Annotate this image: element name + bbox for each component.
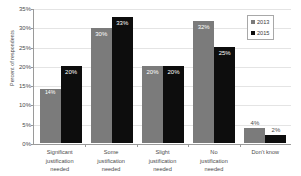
bar-value-label: 2%	[265, 127, 286, 133]
bar-2015-1[interactable]: 33%	[112, 17, 133, 143]
y-tick-label: 0%	[22, 141, 31, 147]
legend-item-2015[interactable]: 2015	[251, 30, 269, 36]
x-axis-label-2: Slightjustificationneeded	[137, 148, 188, 174]
y-tick-label: 10%	[19, 102, 31, 108]
bar-value-label: 14%	[40, 90, 61, 95]
x-axis-label-line: Don't know	[240, 148, 291, 157]
x-axis-label-line: justification	[137, 157, 188, 166]
bar-group: 32%25%	[189, 9, 240, 143]
bar-2013-2[interactable]: 20%	[142, 66, 163, 143]
x-axis-label-line: needed	[188, 165, 239, 174]
x-axis-label-line: needed	[85, 165, 136, 174]
bar-chart: Percent of respondents 0%5%10%15%20%25%3…	[0, 0, 301, 176]
x-axis-label-line: Significant	[34, 148, 85, 157]
bar-2015-4[interactable]: 2%	[265, 135, 286, 143]
y-tick-label: 25%	[19, 45, 31, 51]
bar-2013-0[interactable]: 14%	[40, 89, 61, 143]
bar-value-label: 32%	[193, 24, 214, 30]
legend-swatch-icon-2013	[251, 20, 255, 24]
bar-value-label: 20%	[163, 69, 184, 75]
x-axis-labels: SignificantjustificationneededSomejustif…	[34, 148, 291, 174]
x-axis-label-line: justification	[85, 157, 136, 166]
y-tick-mark	[31, 48, 34, 49]
y-tick-mark	[31, 105, 34, 106]
y-tick-label: 35%	[19, 6, 31, 12]
bar-value-label: 25%	[214, 50, 235, 56]
bar-value-label: 30%	[91, 31, 112, 37]
x-tick-mark	[240, 144, 241, 147]
y-tick-mark	[31, 125, 34, 126]
y-tick-mark	[31, 28, 34, 29]
bar-value-label: 20%	[61, 69, 82, 75]
y-tick-mark	[31, 86, 34, 87]
x-axis-label-4: Don't know	[240, 148, 291, 174]
y-tick-label: 20%	[19, 64, 31, 70]
legend-item-2013[interactable]: 2013	[251, 19, 269, 25]
x-axis-label-line: justification	[188, 157, 239, 166]
x-tick-mark	[85, 144, 86, 147]
y-tick-mark	[31, 67, 34, 68]
bar-group: 14%20%	[35, 9, 86, 143]
y-tick-label: 5%	[22, 122, 31, 128]
bar-2013-3[interactable]: 32%	[193, 21, 214, 144]
bar-2015-2[interactable]: 20%	[163, 66, 184, 143]
y-axis-title: Percent of respondents	[9, 8, 15, 108]
x-axis-label-line: Some	[85, 148, 136, 157]
bar-2013-1[interactable]: 30%	[91, 28, 112, 143]
bar-value-label: 4%	[244, 120, 265, 126]
x-axis-label-line: needed	[137, 165, 188, 174]
y-tick-mark	[31, 9, 34, 10]
bar-2013-4[interactable]: 4%	[244, 128, 265, 143]
bar-value-label: 20%	[142, 69, 163, 75]
x-tick-mark	[188, 144, 189, 147]
bar-2015-3[interactable]: 25%	[214, 47, 235, 143]
x-axis-label-3: Nojustificationneeded	[188, 148, 239, 174]
legend: 2013 2015	[247, 15, 274, 40]
legend-label-2013: 2013	[257, 19, 269, 25]
x-axis-label-0: Significantjustificationneeded	[34, 148, 85, 174]
x-axis-label-line: No	[188, 148, 239, 157]
y-tick-label: 15%	[19, 83, 31, 89]
x-axis-label-line: needed	[34, 165, 85, 174]
bar-group: 20%20%	[137, 9, 188, 143]
bar-value-label: 33%	[112, 20, 133, 26]
bar-group: 30%33%	[86, 9, 137, 143]
bar-2015-0[interactable]: 20%	[61, 66, 82, 143]
y-tick-label: 30%	[19, 25, 31, 31]
y-tick-mark	[31, 144, 34, 145]
x-tick-mark	[137, 144, 138, 147]
x-axis-label-1: Somejustificationneeded	[85, 148, 136, 174]
x-axis-label-line: Slight	[137, 148, 188, 157]
x-axis-label-line: justification	[34, 157, 85, 166]
legend-label-2015: 2015	[257, 30, 269, 36]
legend-swatch-icon-2015	[251, 31, 255, 35]
